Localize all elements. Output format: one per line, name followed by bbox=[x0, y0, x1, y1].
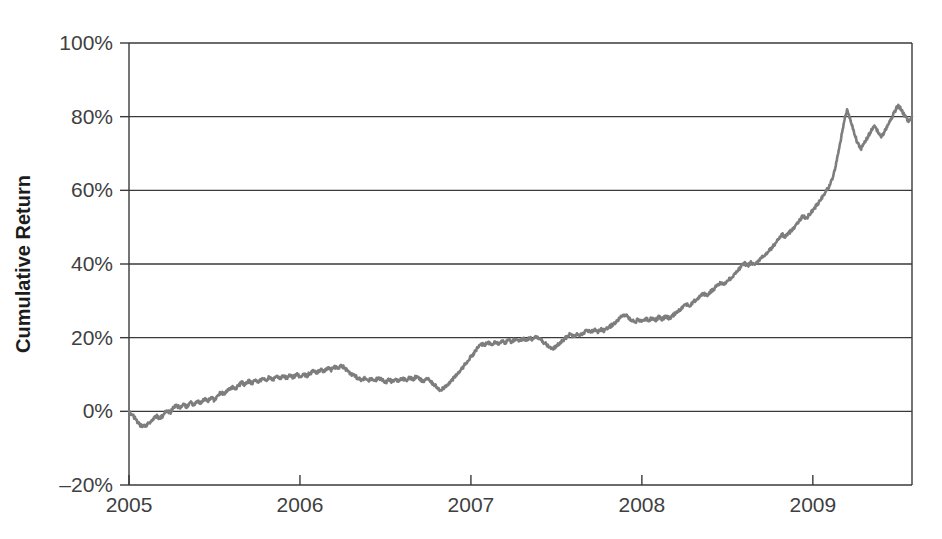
y-tick-label: 80% bbox=[71, 105, 113, 128]
data-series-line bbox=[129, 105, 912, 427]
y-axis-title: Cumulative Return bbox=[12, 175, 34, 353]
x-tick-label: 2008 bbox=[619, 493, 666, 516]
chart-container: –20%0%20%40%60%80%100% 20052006200720082… bbox=[0, 0, 942, 539]
x-tick-label: 2005 bbox=[106, 493, 153, 516]
y-tick-label: 40% bbox=[71, 252, 113, 275]
y-tick-label: 20% bbox=[71, 326, 113, 349]
y-tick-label: 60% bbox=[71, 178, 113, 201]
x-tick-label: 2007 bbox=[448, 493, 495, 516]
data-series-group bbox=[129, 105, 912, 427]
x-tick-label: 2009 bbox=[789, 493, 836, 516]
y-tick-labels: –20%0%20%40%60%80%100% bbox=[59, 31, 129, 496]
x-tick-labels: 20052006200720082009 bbox=[106, 475, 837, 516]
y-tick-label: 100% bbox=[59, 31, 113, 54]
cumulative-return-line-chart: –20%0%20%40%60%80%100% 20052006200720082… bbox=[0, 0, 942, 539]
x-tick-label: 2006 bbox=[277, 493, 324, 516]
y-tick-label: 0% bbox=[83, 399, 113, 422]
